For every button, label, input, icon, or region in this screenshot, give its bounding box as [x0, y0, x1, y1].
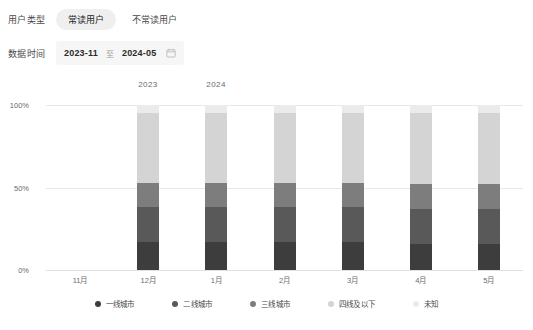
- bar-1月[interactable]: [205, 105, 227, 270]
- legend-swatch-icon: [250, 301, 256, 307]
- legend-label: 一线城市: [106, 298, 135, 309]
- bar-segment-二线城市: [137, 207, 159, 242]
- legend-label: 三线城市: [261, 298, 290, 309]
- chart-plot-area: 0%50%100%: [46, 105, 523, 270]
- user-type-segmented-control[interactable]: 常读用户 不常读用户: [56, 9, 189, 30]
- legend-item-一线城市[interactable]: 一线城市: [95, 298, 135, 309]
- y-axis-tick-label: 100%: [0, 101, 29, 110]
- x-axis-label-11月: 11月: [60, 274, 100, 285]
- bar-segment-二线城市: [478, 209, 500, 244]
- bar-segment-一线城市: [274, 242, 296, 270]
- chart-legend: 一线城市二线城市三线城市四线及以下未知: [0, 298, 533, 309]
- bar-segment-四线及以下: [205, 113, 227, 182]
- bar-segment-未知: [478, 105, 500, 113]
- bar-segment-未知: [410, 105, 432, 113]
- bar-segment-四线及以下: [410, 113, 432, 184]
- legend-item-三线城市[interactable]: 三线城市: [250, 298, 290, 309]
- year-label-2023: 2023: [138, 80, 157, 89]
- x-axis-labels: 11月12月1月2月3月4月5月: [46, 274, 523, 288]
- legend-swatch-icon: [328, 301, 334, 307]
- user-type-option-frequent[interactable]: 常读用户: [56, 9, 116, 30]
- stacked-bar-chart: 20232024 0%50%100% 11月12月1月2月3月4月5月 一线城市…: [0, 76, 533, 330]
- legend-item-二线城市[interactable]: 二线城市: [172, 298, 212, 309]
- bar-segment-二线城市: [342, 207, 364, 242]
- bar-segment-四线及以下: [478, 113, 500, 184]
- bar-segment-一线城市: [478, 244, 500, 270]
- bar-12月[interactable]: [137, 105, 159, 270]
- bar-segment-三线城市: [342, 183, 364, 208]
- bar-segment-一线城市: [342, 242, 364, 270]
- bar-series-layer: [46, 105, 523, 270]
- filter-panel: 用户类型 常读用户 不常读用户 数据时间 2023-11 至 2024-05: [0, 0, 533, 66]
- bar-segment-未知: [205, 105, 227, 113]
- year-label-2024: 2024: [206, 80, 225, 89]
- legend-label: 未知: [424, 298, 438, 309]
- x-axis-label-4月: 4月: [401, 274, 441, 285]
- x-axis-label-12月: 12月: [128, 274, 168, 285]
- legend-label: 四线及以下: [339, 298, 375, 309]
- y-axis-tick-label: 50%: [0, 184, 29, 193]
- bar-segment-未知: [342, 105, 364, 113]
- bar-3月[interactable]: [342, 105, 364, 270]
- x-axis-label-5月: 5月: [469, 274, 509, 285]
- bar-segment-二线城市: [410, 209, 432, 244]
- x-axis-label-3月: 3月: [333, 274, 373, 285]
- bar-segment-三线城市: [137, 183, 159, 208]
- year-group-labels: 20232024: [0, 76, 533, 96]
- x-axis-label-2月: 2月: [265, 274, 305, 285]
- user-type-filter-row: 用户类型 常读用户 不常读用户: [8, 6, 533, 32]
- legend-label: 二线城市: [183, 298, 212, 309]
- x-axis-line: [46, 270, 523, 271]
- date-range-filter-row: 数据时间 2023-11 至 2024-05: [8, 40, 533, 66]
- user-type-label: 用户类型: [8, 13, 56, 26]
- bar-segment-四线及以下: [274, 113, 296, 182]
- bar-segment-一线城市: [410, 244, 432, 270]
- legend-item-四线及以下[interactable]: 四线及以下: [328, 298, 375, 309]
- bar-segment-四线及以下: [342, 113, 364, 182]
- bar-segment-二线城市: [274, 207, 296, 242]
- bar-segment-未知: [137, 105, 159, 113]
- bar-2月[interactable]: [274, 105, 296, 270]
- date-range-start[interactable]: 2023-11: [64, 48, 98, 58]
- legend-swatch-icon: [413, 301, 419, 307]
- x-axis-label-1月: 1月: [196, 274, 236, 285]
- bar-segment-未知: [274, 105, 296, 113]
- legend-swatch-icon: [172, 301, 178, 307]
- y-axis-tick-label: 0%: [0, 266, 29, 275]
- bar-4月[interactable]: [410, 105, 432, 270]
- calendar-icon[interactable]: [166, 48, 176, 58]
- bar-5月[interactable]: [478, 105, 500, 270]
- date-range-end[interactable]: 2024-05: [122, 48, 156, 58]
- bar-segment-一线城市: [205, 242, 227, 270]
- bar-segment-二线城市: [205, 207, 227, 242]
- bar-segment-三线城市: [478, 184, 500, 209]
- legend-item-未知[interactable]: 未知: [413, 298, 438, 309]
- date-range-label: 数据时间: [8, 47, 56, 60]
- legend-swatch-icon: [95, 301, 101, 307]
- bar-segment-三线城市: [205, 183, 227, 208]
- analytics-page: 用户类型 常读用户 不常读用户 数据时间 2023-11 至 2024-05: [0, 0, 533, 330]
- date-range-picker[interactable]: 2023-11 至 2024-05: [56, 41, 184, 65]
- user-type-option-infrequent[interactable]: 不常读用户: [120, 9, 189, 30]
- date-range-separator: 至: [106, 48, 114, 59]
- bar-segment-四线及以下: [137, 113, 159, 182]
- bar-segment-三线城市: [274, 183, 296, 208]
- bar-segment-一线城市: [137, 242, 159, 270]
- bar-segment-三线城市: [410, 184, 432, 209]
